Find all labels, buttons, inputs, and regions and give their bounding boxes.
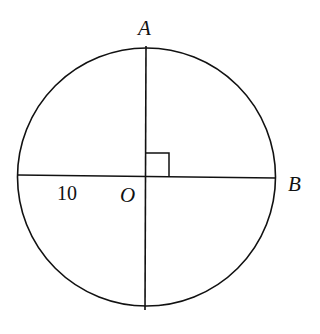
point-label-o: O	[120, 183, 135, 207]
horizontal-diameter	[18, 175, 276, 178]
vertical-diameter	[145, 46, 146, 310]
radius-label: 10	[57, 182, 77, 204]
right-angle-marker	[146, 153, 169, 177]
point-label-b: B	[288, 172, 301, 196]
circle-diagram: A B O 10	[0, 0, 320, 334]
point-label-a: A	[136, 16, 151, 40]
